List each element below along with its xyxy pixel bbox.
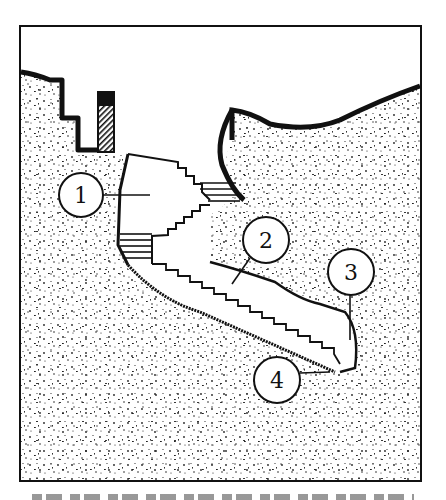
hatched-wall-cap [98, 92, 114, 106]
callout-3-label: 3 [344, 260, 358, 285]
callout-2-label: 2 [259, 228, 273, 253]
callout-4-label: 4 [270, 368, 284, 393]
cropped-caption [0, 487, 446, 500]
stairway-cross-section-diagram: 1 2 3 4 [0, 0, 446, 500]
callout-1-label: 1 [74, 183, 88, 208]
